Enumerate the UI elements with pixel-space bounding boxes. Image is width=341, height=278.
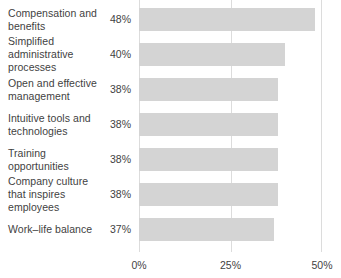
x-axis: 0%25%50% [0, 255, 341, 278]
category-label: Training opportunities [0, 147, 104, 173]
bar [139, 113, 278, 136]
bar-row [139, 218, 322, 241]
category-label: Simplified administrative processes [0, 35, 104, 74]
value-label: 37% [104, 223, 135, 236]
bar-row [139, 113, 322, 136]
value-label: 48% [104, 13, 135, 26]
bar-row [139, 8, 322, 31]
category-row: Simplified administrative processes40% [0, 43, 139, 66]
value-label: 40% [104, 48, 135, 61]
horizontal-bar-chart: Compensation and benefits48%Simplified a… [0, 0, 341, 278]
value-label: 38% [104, 83, 135, 96]
category-row: Training opportunities38% [0, 148, 139, 171]
category-label: Company culture that inspires employees [0, 175, 104, 214]
category-row: Compensation and benefits48% [0, 8, 139, 31]
bar [139, 8, 315, 31]
category-label-column: Compensation and benefits48%Simplified a… [0, 0, 139, 252]
bar [139, 218, 274, 241]
bar-row [139, 78, 322, 101]
category-label: Compensation and benefits [0, 7, 104, 33]
value-label: 38% [104, 188, 135, 201]
x-tick-label: 0% [131, 259, 146, 271]
category-row: Company culture that inspires employees3… [0, 183, 139, 206]
plot-area [139, 0, 322, 252]
value-label: 38% [104, 118, 135, 131]
bar [139, 148, 278, 171]
category-label: Open and effective management [0, 77, 104, 103]
bar-row [139, 183, 322, 206]
category-row: Open and effective management38% [0, 78, 139, 101]
bar [139, 43, 285, 66]
category-row: Work–life balance37% [0, 218, 139, 241]
x-tick-label: 25% [220, 259, 241, 271]
bar [139, 78, 278, 101]
value-label: 38% [104, 153, 135, 166]
bar-rows [139, 0, 322, 252]
bar-row [139, 148, 322, 171]
category-label: Work–life balance [0, 223, 104, 236]
category-label: Intuitive tools and technologies [0, 112, 104, 138]
bar [139, 183, 278, 206]
x-tick-label: 50% [311, 259, 332, 271]
bar-row [139, 43, 322, 66]
category-row: Intuitive tools and technologies38% [0, 113, 139, 136]
